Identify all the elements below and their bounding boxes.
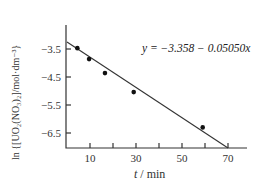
x-tick-label: 70 <box>223 152 235 164</box>
x-tick-label: 50 <box>177 152 189 164</box>
data-point <box>200 125 205 130</box>
regression-line <box>67 42 228 148</box>
data-points <box>75 46 205 130</box>
data-point <box>87 57 92 62</box>
y-axis-label: ln {[UO₂(NO₃)₂]/mol·dm⁻³} <box>10 45 22 160</box>
y-tick-label: −4.5 <box>41 71 61 83</box>
x-axis-label: t / min <box>134 167 165 181</box>
fit-line <box>67 42 228 148</box>
axis-ticks: 10305070−3.5−4.5−5.5−6.5 <box>41 43 234 164</box>
x-tick-label: 30 <box>131 152 143 164</box>
y-tick-label: −5.5 <box>41 99 61 111</box>
y-tick-label: −6.5 <box>41 127 61 139</box>
fit-equation: y = −3.358 − 0.05050x <box>141 42 251 55</box>
data-point <box>131 90 136 95</box>
data-point <box>103 71 108 76</box>
y-tick-label: −3.5 <box>41 43 61 55</box>
x-tick-label: 10 <box>85 152 97 164</box>
chart: 10305070−3.5−4.5−5.5−6.5 y = −3.358 − 0.… <box>0 0 262 189</box>
data-point <box>75 46 80 51</box>
